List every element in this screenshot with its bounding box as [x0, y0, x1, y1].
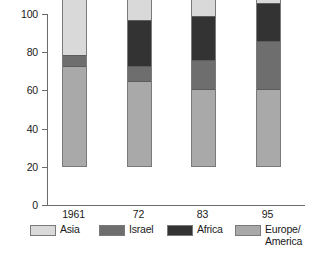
bar-segment-israel	[257, 42, 280, 90]
y-axis-tick	[42, 90, 48, 91]
bar-segment-asia	[128, 0, 151, 21]
legend-item[interactable]: Africa	[167, 224, 223, 236]
bar-72	[127, 0, 152, 167]
x-axis-line	[47, 205, 305, 206]
bar-segment-africa	[128, 21, 151, 67]
bar-segment-asia	[63, 0, 86, 56]
bar-segment-europe-america	[257, 90, 280, 166]
bar-83	[191, 0, 216, 167]
x-axis-tick-label: 72	[109, 208, 169, 220]
legend-item[interactable]: Israel	[99, 224, 153, 236]
legend-item[interactable]: Asia	[30, 224, 80, 236]
x-axis-tick-label: 1961	[44, 208, 104, 220]
x-axis-tick-label: 83	[173, 208, 233, 220]
bar-segment-asia	[192, 0, 215, 17]
plot-area: 020406080100 1961728395	[0, 0, 315, 215]
legend-swatch-icon	[235, 225, 261, 236]
bar-segment-israel	[128, 67, 151, 82]
y-axis-tick-label: 80	[0, 47, 38, 57]
y-axis-tick-label: 0	[0, 200, 38, 210]
legend-swatch-icon	[30, 225, 56, 236]
legend-swatch-icon	[167, 225, 193, 236]
y-axis-tick	[42, 52, 48, 53]
y-axis-tick-label: 60	[0, 85, 38, 95]
legend-label: Europe/ America	[265, 224, 302, 247]
bar-95	[256, 0, 281, 167]
bar-segment-israel	[192, 61, 215, 90]
y-axis-tick	[42, 14, 48, 15]
y-axis-tick	[42, 167, 48, 168]
bar-segment-africa	[257, 4, 280, 42]
bar-segment-africa	[192, 17, 215, 61]
y-axis-tick	[42, 205, 48, 206]
bar-segment-israel	[63, 56, 86, 67]
legend-item[interactable]: Europe/ America	[235, 224, 302, 247]
legend-label: Asia	[60, 224, 80, 236]
x-axis-tick-label: 95	[238, 208, 298, 220]
bar-segment-europe-america	[128, 82, 151, 166]
y-axis-tick-label: 20	[0, 162, 38, 172]
bar-segment-europe-america	[192, 90, 215, 166]
stacked-bar-chart: 020406080100 1961728395 AsiaIsraelAfrica…	[0, 0, 315, 253]
legend-swatch-icon	[99, 225, 125, 236]
bar-1961	[62, 0, 87, 167]
y-axis-line	[47, 14, 48, 206]
bar-segment-europe-america	[63, 67, 86, 166]
y-axis-tick-label: 100	[0, 9, 38, 19]
chart-legend: AsiaIsraelAfricaEurope/ America	[0, 224, 315, 253]
y-axis-tick	[42, 129, 48, 130]
legend-label: Africa	[197, 224, 223, 236]
legend-label: Israel	[129, 224, 153, 236]
y-axis-tick-label: 40	[0, 124, 38, 134]
